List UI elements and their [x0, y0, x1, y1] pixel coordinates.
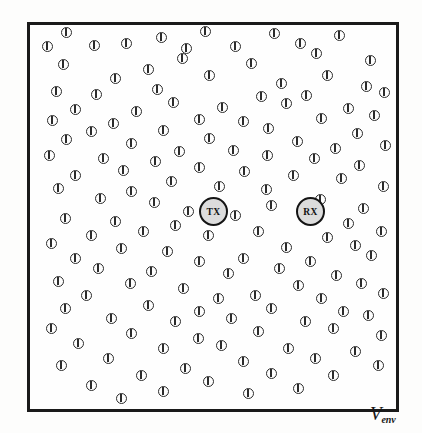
information-molecule-icon [356, 278, 367, 289]
information-molecule-icon [311, 48, 322, 59]
information-molecule-icon [200, 26, 211, 37]
node-tx-label: TX [207, 207, 221, 217]
information-molecule-icon [106, 313, 117, 324]
information-molecule-icon [223, 268, 234, 279]
information-molecule-icon [194, 306, 205, 317]
information-molecule-icon [343, 103, 354, 114]
information-molecule-icon [158, 125, 169, 136]
information-molecule-icon [180, 363, 191, 374]
information-molecule-icon [246, 58, 257, 69]
information-molecule-icon [86, 380, 97, 391]
information-molecule-icon [116, 393, 127, 404]
information-molecule-icon [214, 181, 225, 192]
information-molecule-icon [53, 276, 64, 287]
information-molecule-icon [334, 30, 345, 41]
information-molecule-icon [166, 176, 177, 187]
information-molecule-icon [266, 200, 277, 211]
information-molecule-icon [143, 300, 154, 311]
information-molecule-icon [369, 110, 380, 121]
information-molecule-icon [44, 150, 55, 161]
information-molecule-icon [300, 316, 311, 327]
information-molecule-icon [81, 290, 92, 301]
information-molecule-icon [108, 118, 119, 129]
information-molecule-icon [376, 330, 387, 341]
node-rx-label: RX [303, 207, 317, 217]
information-molecule-icon [126, 328, 137, 339]
information-molecule-icon [110, 73, 121, 84]
information-molecule-icon [266, 368, 277, 379]
information-molecule-icon [366, 250, 377, 261]
information-molecule-icon [86, 230, 97, 241]
information-molecule-icon [363, 310, 374, 321]
information-molecule-icon [358, 203, 369, 214]
information-molecule-icon [330, 143, 341, 154]
information-molecule-icon [110, 216, 121, 227]
information-molecule-icon [316, 113, 327, 124]
information-molecule-icon [51, 86, 62, 97]
information-molecule-icon [322, 232, 333, 243]
information-molecule-icon [152, 84, 163, 95]
information-molecule-icon [138, 226, 149, 237]
information-molecule-icon [230, 41, 241, 52]
information-molecule-icon [376, 226, 387, 237]
information-molecule-icon [243, 388, 254, 399]
information-molecule-icon [204, 70, 215, 81]
information-molecule-icon [70, 170, 81, 181]
information-molecule-icon [316, 293, 327, 304]
information-molecule-icon [181, 43, 192, 54]
volume-symbol: V [370, 403, 382, 424]
information-molecule-icon [373, 360, 384, 371]
information-molecule-icon [350, 346, 361, 357]
information-molecule-icon [361, 81, 372, 92]
information-molecule-icon [269, 28, 280, 39]
information-molecule-icon [309, 153, 320, 164]
information-molecule-icon [216, 340, 227, 351]
information-molecule-icon [331, 270, 342, 281]
information-molecule-icon [95, 193, 106, 204]
information-molecule-icon [158, 343, 169, 354]
information-molecule-icon [253, 326, 264, 337]
information-molecule-icon [91, 89, 102, 100]
information-molecule-icon [266, 303, 277, 314]
information-molecule-icon [158, 386, 169, 397]
information-molecule-icon [217, 102, 228, 113]
information-molecule-icon [58, 59, 69, 70]
information-molecule-icon [61, 27, 72, 38]
information-molecule-icon [156, 32, 167, 43]
information-molecule-icon [126, 186, 137, 197]
information-molecule-icon [281, 242, 292, 253]
information-molecule-icon [60, 213, 71, 224]
information-molecule-icon [103, 353, 114, 364]
information-molecule-icon [281, 98, 292, 109]
information-molecule-icon [328, 370, 339, 381]
information-molecule-icon [379, 87, 390, 98]
information-molecule-icon [261, 184, 272, 195]
information-molecule-icon [183, 206, 194, 217]
information-molecule-icon [118, 165, 129, 176]
information-molecule-icon [194, 114, 205, 125]
information-molecule-icon [238, 356, 249, 367]
node-rx[interactable]: RX [296, 197, 325, 226]
information-molecule-icon [86, 126, 97, 137]
information-molecule-icon [276, 78, 287, 89]
information-molecule-icon [89, 40, 100, 51]
information-molecule-icon [162, 246, 173, 257]
information-molecule-icon [352, 128, 363, 139]
information-molecule-icon [253, 226, 264, 237]
information-molecule-icon [170, 220, 181, 231]
information-molecule-icon [354, 160, 365, 171]
information-molecule-icon [46, 238, 57, 249]
information-molecule-icon [177, 53, 188, 64]
information-molecule-icon [70, 253, 81, 264]
information-molecule-icon [116, 243, 127, 254]
node-tx[interactable]: TX [199, 197, 228, 226]
information-molecule-icon [168, 97, 179, 108]
information-molecule-icon [262, 150, 273, 161]
information-molecule-icon [193, 333, 204, 344]
information-molecule-icon [378, 288, 389, 299]
information-molecule-icon [295, 38, 306, 49]
information-molecule-icon [226, 313, 237, 324]
information-molecule-icon [230, 210, 241, 221]
information-molecule-icon [350, 240, 361, 251]
information-molecule-icon [178, 283, 189, 294]
